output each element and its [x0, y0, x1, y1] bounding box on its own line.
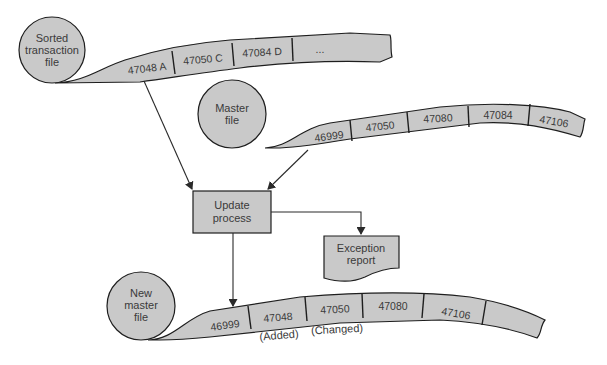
master-label-1: Master: [215, 102, 249, 114]
update-label-1: Update: [214, 199, 249, 211]
arrow-update-to-exception: [271, 212, 361, 234]
new-master-record: 47050: [320, 302, 350, 316]
new-master-label-2: master: [124, 299, 158, 311]
transaction-label-3: file: [45, 56, 59, 68]
master-record: 47084: [483, 109, 512, 121]
file-update-diagram: Sorted transaction file 47048 A 47050 C …: [0, 0, 607, 365]
transaction-file: Sorted transaction file 47048 A 47050 C …: [19, 17, 392, 83]
new-master-file: New master file 46999 47048 47050 47080 …: [107, 272, 545, 343]
master-record: 47080: [423, 111, 453, 125]
transaction-tape: [55, 33, 392, 83]
master-label-2: file: [225, 114, 239, 126]
transaction-record: ...: [316, 43, 325, 55]
arrow-master-to-update: [268, 150, 308, 189]
new-master-record: 47080: [378, 300, 407, 312]
new-master-label-1: New: [130, 287, 152, 299]
transaction-label-1: Sorted: [36, 32, 68, 44]
added-annotation: (Added): [259, 327, 299, 342]
exception-label-1: Exception: [337, 242, 385, 254]
master-file: Master file 46999 47050 47080 47084 4710…: [198, 80, 585, 148]
update-process: Update process: [193, 191, 271, 233]
changed-annotation: (Changed): [311, 322, 364, 337]
exception-label-2: report: [347, 254, 376, 266]
update-label-2: process: [213, 212, 252, 224]
transaction-record: 47084 D: [242, 45, 283, 59]
new-master-record: 47048: [263, 310, 293, 325]
transaction-label-2: transaction: [25, 44, 79, 56]
master-tape: [265, 104, 585, 148]
exception-report: Exception report: [324, 236, 399, 281]
arrow-transaction-to-update: [144, 81, 192, 189]
new-master-label-3: file: [134, 311, 148, 323]
